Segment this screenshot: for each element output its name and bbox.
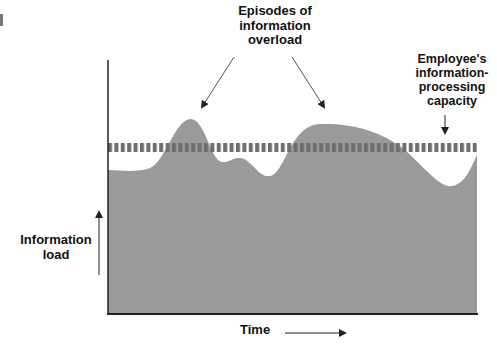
information-load-diagram (0, 0, 497, 353)
capacity-threshold-band (108, 143, 477, 152)
episode-arrow-right (292, 57, 324, 107)
episode-arrow-left (202, 57, 234, 107)
